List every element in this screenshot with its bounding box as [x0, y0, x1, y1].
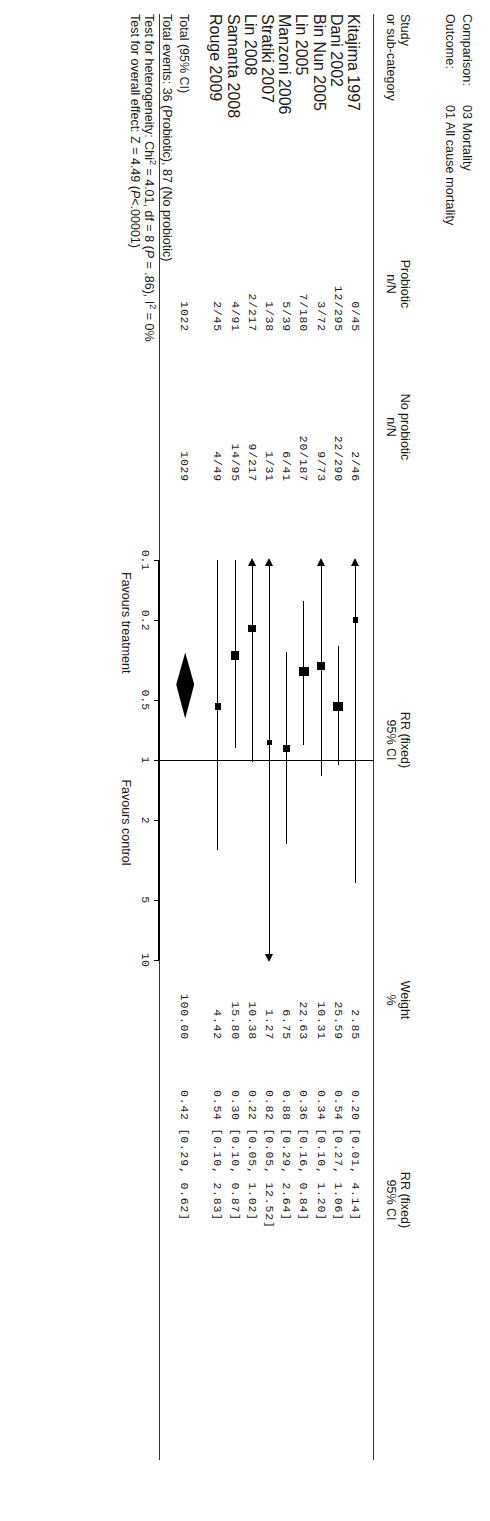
row-weight: 25.59 [332, 960, 345, 1040]
row-weight: 10.38 [246, 960, 259, 1040]
row-study-name: Lin 2008 [241, 14, 259, 75]
comparison-value: 03 Mortality [460, 105, 474, 171]
column-header-study: Study or sub-category [384, 14, 412, 101]
note-overall-pre: Test for overall effect: Z = 4.49 ( [128, 14, 142, 190]
axis-tick [154, 560, 159, 561]
effect-size-marker [283, 745, 290, 752]
total-noprobiotic: 1029 [178, 372, 191, 482]
graph-baseline [159, 560, 160, 960]
column-header-study-line2: or sub-category [384, 14, 398, 101]
row-noprobiotic-nn: 9/217 [246, 372, 259, 482]
column-header-probiotic-line1: Probiotic [398, 236, 412, 332]
row-probiotic-nn: 0/45 [349, 236, 362, 332]
row-rr-ci: 0.34 [0.10, 1.20] [315, 1090, 328, 1320]
column-header-rr-line1: RR (fixed) [398, 1090, 412, 1310]
row-probiotic-nn: 2/45 [211, 236, 224, 332]
row-rr-ci: 0.88 [0.29, 2.64] [280, 1090, 293, 1320]
axis-tick-label: 0.2 [139, 610, 152, 631]
ci-left-arrow-icon [352, 558, 360, 566]
ci-left-arrow-icon [317, 558, 325, 566]
row-probiotic-nn: 12/295 [332, 236, 345, 332]
column-header-probiotic-line2: n/N [384, 236, 398, 332]
axis-tick-label: 0.1 [139, 550, 152, 571]
ci-left-arrow-icon [266, 558, 274, 566]
row-rr-ci: 0.30 [0.10, 0.87] [229, 1090, 242, 1320]
note-het-post: = .86), I [142, 258, 156, 304]
axis-tick-label: 0.5 [139, 689, 152, 710]
column-header-weight-line2: % [384, 960, 398, 1040]
pooled-effect-diamond [176, 652, 194, 718]
effect-size-marker [353, 617, 359, 623]
reference-line [159, 760, 374, 761]
row-noprobiotic-nn: 6/41 [280, 372, 293, 482]
row-study-name: Bin Nun 2005 [310, 14, 328, 111]
column-header-study-line1: Study [398, 14, 412, 101]
row-rr-ci: 0.22 [0.05, 1.02] [246, 1090, 259, 1320]
axis-tick [154, 900, 159, 901]
confidence-interval-line [252, 560, 253, 762]
axis-tick [154, 760, 159, 761]
row-study-name: Stratiki 2007 [258, 14, 276, 103]
row-probiotic-nn: 2/217 [246, 236, 259, 332]
note-het-end: = 0% [142, 309, 156, 341]
confidence-interval-line [355, 560, 356, 883]
column-header-plot-line2: 95% CI [384, 560, 398, 920]
row-rr-ci: 0.54 [0.10, 2.83] [211, 1090, 224, 1320]
column-header-noprobiotic-line2: n/N [384, 372, 398, 482]
row-noprobiotic-nn: 20/187 [297, 372, 310, 482]
total-weight: 100.00 [178, 960, 191, 1040]
column-header-rr: RR (fixed) 95% CI [384, 1090, 412, 1310]
effect-size-marker [231, 651, 240, 660]
row-study-name: Kitajima 1997 [344, 14, 362, 111]
row-weight: 4.42 [211, 960, 224, 1040]
axis-tick [154, 700, 159, 701]
column-header-weight: Weight % [384, 960, 412, 1040]
total-label: Total (95% CI) [177, 14, 191, 93]
row-weight: 2.85 [349, 960, 362, 1040]
axis-tick-label: 2 [139, 817, 152, 824]
comparison-label: Comparison: [460, 14, 474, 86]
note-het-pre: Test for heterogeneity: Chi [142, 14, 156, 160]
note-overall-p: P [128, 190, 142, 198]
note-heterogeneity: Test for heterogeneity: Chi2 = 4.01, df … [142, 14, 158, 342]
total-probiotic: 1022 [178, 236, 191, 332]
effect-size-marker [267, 740, 272, 745]
row-noprobiotic-nn: 2/46 [349, 372, 362, 482]
column-header-noprobiotic: No probiotic n/N [384, 372, 412, 482]
column-header-noprobiotic-line1: No probiotic [398, 372, 412, 482]
outcome-label: Outcome: [443, 14, 457, 69]
row-probiotic-nn: 7/180 [297, 236, 310, 332]
row-probiotic-nn: 5/39 [280, 236, 293, 332]
row-noprobiotic-nn: 4/49 [211, 372, 224, 482]
row-study-name: Samanta 2008 [224, 14, 242, 118]
effect-size-marker [317, 662, 325, 670]
note-overall-effect: Test for overall effect: Z = 4.49 (P<.00… [128, 14, 142, 248]
row-probiotic-nn: 1/38 [263, 236, 276, 332]
row-noprobiotic-nn: 1/31 [263, 372, 276, 482]
confidence-interval-line [269, 560, 270, 960]
row-probiotic-nn: 3/72 [315, 236, 328, 332]
effect-size-marker [248, 625, 256, 633]
favours-treatment-label: Favours treatment [119, 572, 133, 673]
row-noprobiotic-nn: 9/73 [315, 372, 328, 482]
note-het-mid: = 4.01, df = 8 ( [142, 165, 156, 250]
row-rr-ci: 0.82 [0.05, 12.52] [263, 1090, 276, 1320]
column-header-plot: RR (fixed) 95% CI [384, 560, 412, 920]
ci-left-arrow-icon [248, 558, 256, 566]
row-weight: 15.80 [229, 960, 242, 1040]
note-het-p: P [142, 250, 156, 258]
axis-tick-label: 5 [139, 896, 152, 903]
column-header-weight-line1: Weight [398, 960, 412, 1040]
effect-size-marker [299, 667, 308, 676]
favours-control-label: Favours control [119, 779, 133, 865]
row-weight: 1.27 [263, 960, 276, 1040]
axis-tick [154, 620, 159, 621]
column-header-plot-line1: RR (fixed) [398, 560, 412, 920]
axis-tick [154, 960, 159, 961]
forest-plot-figure: Comparison: 03 Mortality Outcome: 01 All… [0, 0, 490, 1521]
axis-tick [154, 820, 159, 821]
row-rr-ci: 0.36 [0.16, 0.84] [297, 1090, 310, 1320]
note-total-events: Total events: 36 (Probiotic), 87 (No pro… [160, 14, 174, 261]
row-rr-ci: 0.54 [0.27, 1.06] [332, 1090, 345, 1320]
note-overall-post: <.00001) [128, 198, 142, 248]
